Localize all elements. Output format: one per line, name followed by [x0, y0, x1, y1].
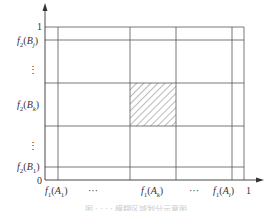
y-axis-top-label: 1 [37, 22, 42, 32]
x-tick-f1-ai: f1(Ai) [213, 186, 234, 200]
origin-label: 0 [37, 176, 42, 186]
x-tick-f1-ak: f1(Ak) [141, 186, 163, 200]
y-vdots-upper: ⋮ [28, 65, 38, 75]
figure-caption: 图 · · · · 模糊区域划分示意图 [0, 203, 272, 211]
y-tick-f2-bk: f2(Bk) [17, 100, 39, 114]
hatched-cell [130, 83, 176, 126]
y-vdots-lower: ⋮ [28, 141, 38, 151]
y-axis-arrow-icon [43, 3, 48, 11]
y-tick-f2-bj: f2(Bj) [17, 36, 38, 50]
x-axis-right-label: 1 [246, 186, 251, 196]
x-hdots-left: ··· [88, 186, 98, 196]
x-axis-arrow-icon [256, 178, 264, 183]
x-tick-f1-a1: f1(A1) [45, 186, 68, 200]
x-hdots-right: ··· [189, 186, 199, 196]
y-tick-f2-b1: f2(B1) [17, 162, 40, 176]
